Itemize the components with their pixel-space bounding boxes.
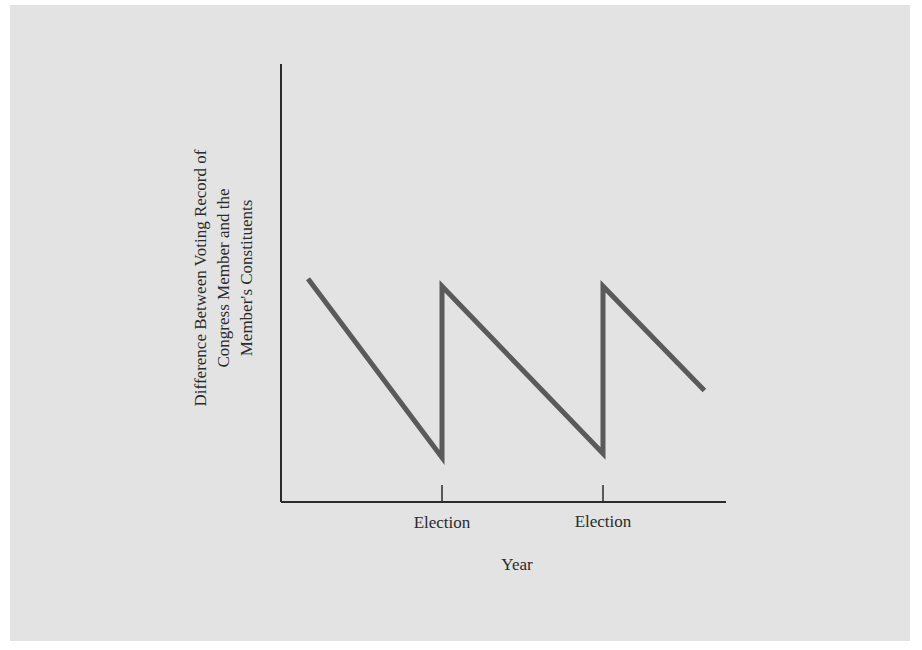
y-axis-label-line-3: Member's Constituents	[237, 200, 256, 357]
x-tick-label-2: Election	[575, 512, 632, 531]
data-line	[308, 279, 704, 458]
y-axis-label-line-2: Congress Member and the	[214, 189, 233, 368]
chart: Election Election Year Difference Betwee…	[0, 0, 922, 650]
x-tick-label-1: Election	[414, 513, 471, 532]
y-axis-label-line-1: Difference Between Voting Record of	[191, 149, 210, 406]
x-axis-label: Year	[501, 555, 533, 574]
